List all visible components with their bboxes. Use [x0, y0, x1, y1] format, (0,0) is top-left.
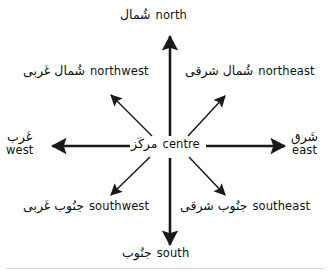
label-north: شُمال north: [120, 8, 187, 22]
label-south-english: south: [157, 247, 190, 259]
label-north-english: north: [156, 9, 187, 21]
label-northwest-arabic: شُمال غَربی: [23, 64, 85, 78]
label-east-arabic: شَرق: [291, 130, 318, 144]
label-northeast-arabic: شُمال شرقی: [185, 64, 253, 78]
label-centre-arabic: مرکَز: [131, 137, 157, 151]
label-west: غَرب west: [6, 130, 33, 158]
label-west-arabic: غَرب: [7, 130, 32, 144]
label-southwest-arabic: جنُوب غَربی: [23, 199, 84, 213]
arrow-northeast: [188, 96, 225, 136]
label-west-english: west: [6, 144, 33, 157]
label-east-english: east: [292, 144, 317, 157]
label-east: شَرق east: [291, 130, 318, 158]
label-southeast: جنُوب شرقی southeast: [180, 199, 310, 213]
arrow-southeast: [189, 157, 225, 195]
label-southeast-english: southeast: [252, 200, 310, 212]
arrow-southwest: [111, 157, 150, 195]
label-south: جنُوب south: [122, 246, 189, 260]
label-northeast: شُمال شرقی northeast: [185, 64, 315, 78]
label-southwest: جنُوب غَربی southwest: [23, 199, 149, 213]
label-centre-english: centre: [162, 138, 199, 150]
label-southwest-english: southwest: [89, 200, 149, 212]
label-north-arabic: شُمال: [120, 8, 151, 22]
label-northwest-english: northwest: [90, 65, 149, 77]
compass-diagram: شُمال north شُمال شرقی northeast شَرق ea…: [0, 0, 331, 276]
bottom-divider: [6, 268, 325, 269]
label-centre: مرکَز centre: [130, 137, 201, 151]
label-south-arabic: جنُوب: [122, 246, 152, 260]
arrow-northwest: [111, 95, 152, 136]
label-northwest: شُمال غَربی northwest: [23, 64, 149, 78]
label-northeast-english: northeast: [258, 65, 314, 77]
label-southeast-arabic: جنُوب شرقی: [180, 199, 247, 213]
